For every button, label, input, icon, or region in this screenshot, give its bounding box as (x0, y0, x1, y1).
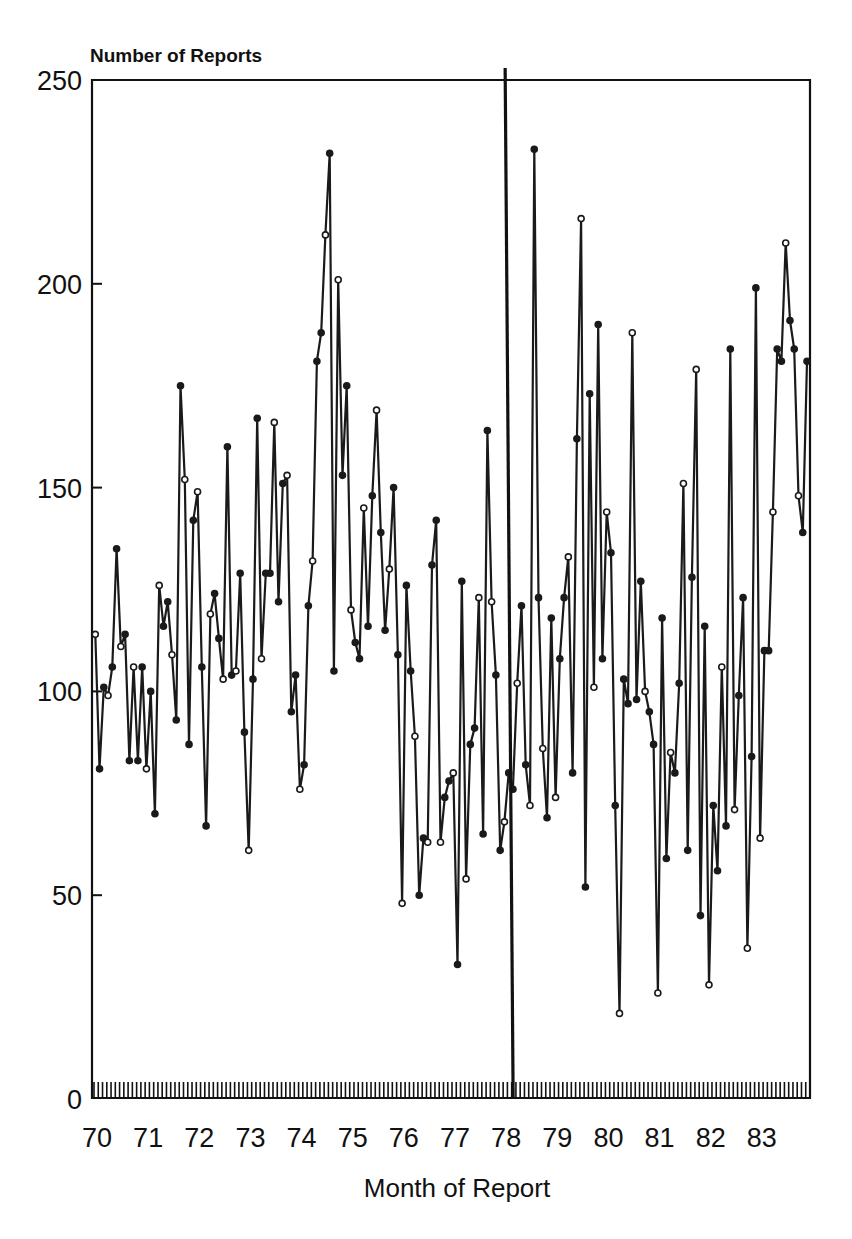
data-point (599, 656, 605, 662)
x-tick-label: 72 (184, 1123, 214, 1153)
data-point (156, 582, 162, 588)
data-point (501, 819, 507, 825)
data-point (672, 770, 678, 776)
data-point (578, 216, 584, 222)
data-point (663, 856, 669, 862)
data-point (723, 823, 729, 829)
data-point (736, 692, 742, 698)
data-point (659, 615, 665, 621)
data-point (437, 839, 443, 845)
x-tick-label: 79 (542, 1123, 572, 1153)
data-point (676, 680, 682, 686)
data-point (293, 672, 299, 678)
data-point (527, 803, 533, 809)
data-point (143, 766, 149, 772)
data-point (638, 578, 644, 584)
data-point (335, 277, 341, 283)
data-point (548, 615, 554, 621)
data-point (446, 778, 452, 784)
data-point (778, 358, 784, 364)
data-point (267, 570, 273, 576)
data-point (348, 607, 354, 613)
data-point (276, 599, 282, 605)
data-point (246, 847, 252, 853)
data-point (408, 668, 414, 674)
y-axis-title: Number of Reports (90, 45, 262, 66)
data-point (237, 570, 243, 576)
data-point (403, 582, 409, 588)
data-point (241, 729, 247, 735)
x-tick-label: 82 (696, 1123, 726, 1153)
data-point (207, 611, 213, 617)
data-point (561, 595, 567, 601)
data-point (169, 652, 175, 658)
data-point (220, 676, 226, 682)
data-point (574, 436, 580, 442)
data-point (305, 603, 311, 609)
data-point (118, 644, 124, 650)
data-series (92, 146, 810, 1016)
data-point (369, 493, 375, 499)
data-point (399, 900, 405, 906)
y-tick-label: 250 (37, 66, 82, 96)
data-point (114, 546, 120, 552)
data-point (766, 648, 772, 654)
data-point (697, 913, 703, 919)
x-tick-label: 76 (389, 1123, 419, 1153)
data-point (804, 358, 810, 364)
data-point (357, 656, 363, 662)
y-tick-label: 150 (37, 474, 82, 504)
data-point (271, 419, 277, 425)
data-point (459, 578, 465, 584)
data-point (195, 489, 201, 495)
data-point (122, 631, 128, 637)
data-point (109, 664, 115, 670)
data-point (391, 485, 397, 491)
data-point (472, 725, 478, 731)
data-point (339, 472, 345, 478)
data-point (361, 505, 367, 511)
data-point (770, 509, 776, 515)
data-point (787, 317, 793, 323)
data-point (710, 803, 716, 809)
data-point (467, 741, 473, 747)
data-point (416, 892, 422, 898)
data-point (753, 285, 759, 291)
data-point (131, 664, 137, 670)
data-point (484, 428, 490, 434)
data-point (518, 603, 524, 609)
x-tick-label: 83 (747, 1123, 777, 1153)
data-point (374, 407, 380, 413)
data-point (442, 794, 448, 800)
y-tick-label: 200 (37, 270, 82, 300)
x-tick-label: 75 (338, 1123, 368, 1153)
data-point (310, 558, 316, 564)
data-point (616, 1010, 622, 1016)
data-point (135, 758, 141, 764)
data-point (352, 639, 358, 645)
data-point (497, 847, 503, 853)
data-point (288, 709, 294, 715)
data-point (297, 786, 303, 792)
data-point (254, 415, 260, 421)
data-point (553, 794, 559, 800)
data-point (92, 631, 98, 637)
data-point (280, 481, 286, 487)
x-axis-title: Month of Report (364, 1173, 551, 1203)
x-tick-label: 73 (235, 1123, 265, 1153)
data-point (258, 656, 264, 662)
data-point (182, 476, 188, 482)
data-point (744, 945, 750, 951)
data-point (689, 574, 695, 580)
data-point (148, 688, 154, 694)
data-point (199, 664, 205, 670)
data-point (450, 770, 456, 776)
data-point (386, 566, 392, 572)
y-tick-label: 0 (67, 1085, 82, 1115)
data-point (301, 762, 307, 768)
data-point (646, 709, 652, 715)
data-point (625, 701, 631, 707)
data-point (429, 562, 435, 568)
data-point (97, 766, 103, 772)
data-point (732, 807, 738, 813)
